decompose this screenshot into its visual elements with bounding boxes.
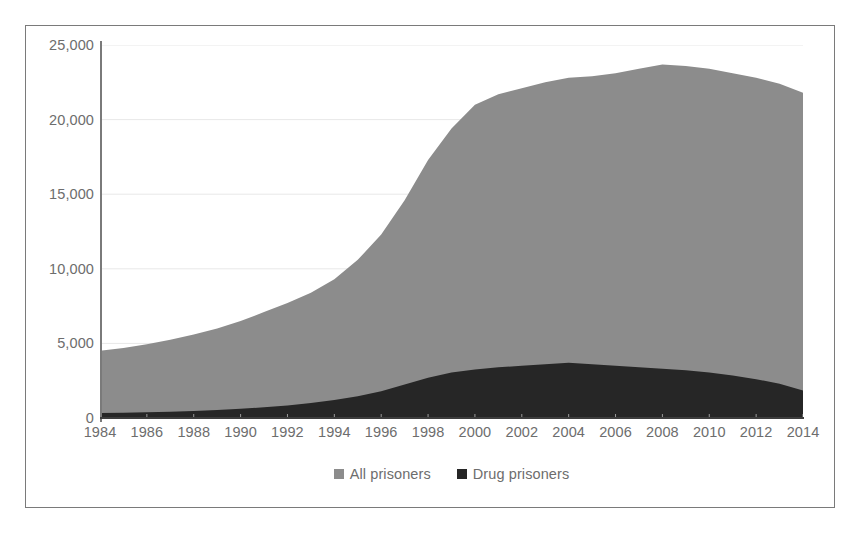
x-axis-line: [100, 417, 804, 419]
x-tick-label: 2004: [552, 424, 585, 440]
series-areas: [100, 64, 803, 418]
area-chart-svg: [100, 45, 803, 418]
x-tick-label: 2014: [787, 424, 820, 440]
x-tick-label: 2002: [505, 424, 538, 440]
x-tick-label: 1994: [318, 424, 351, 440]
x-tick-label: 1990: [224, 424, 257, 440]
y-axis-tick-labels: 05,00010,00015,00020,00025,000: [30, 45, 94, 418]
legend-item[interactable]: All prisoners: [334, 466, 431, 482]
legend-item[interactable]: Drug prisoners: [457, 466, 570, 482]
x-tick-label: 1984: [84, 424, 117, 440]
x-tick-label: 1996: [365, 424, 398, 440]
plot-area: [100, 45, 803, 418]
y-tick-label: 20,000: [49, 112, 94, 128]
x-tick-label: 1986: [131, 424, 164, 440]
x-tick-label: 1988: [177, 424, 210, 440]
y-tick-label: 15,000: [49, 186, 94, 202]
area-series-all-prisoners: [100, 64, 803, 418]
y-tick-label: 25,000: [49, 37, 94, 53]
y-tick-label: 10,000: [49, 261, 94, 277]
y-tick-label: 5,000: [57, 335, 94, 351]
chart-legend: All prisonersDrug prisoners: [100, 466, 803, 482]
x-tick-label: 2000: [459, 424, 492, 440]
x-axis-tick-labels: 1984198619881990199219941996199820002002…: [100, 424, 803, 448]
y-axis-line: [100, 41, 102, 422]
x-tick-label: 2006: [599, 424, 632, 440]
x-tick-label: 2012: [740, 424, 773, 440]
legend-swatch-all-prisoners: [334, 469, 344, 479]
legend-swatch-drug-prisoners: [457, 469, 467, 479]
legend-item-label: All prisoners: [350, 466, 431, 482]
x-tick-label: 1992: [271, 424, 304, 440]
x-tick-label: 2010: [693, 424, 726, 440]
x-tick-label: 1998: [412, 424, 445, 440]
x-tick-label: 2008: [646, 424, 679, 440]
legend-item-label: Drug prisoners: [473, 466, 570, 482]
chart-page: 05,00010,00015,00020,00025,000 198419861…: [0, 0, 860, 540]
